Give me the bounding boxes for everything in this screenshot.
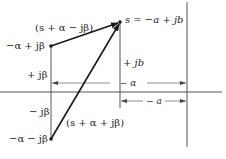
s-point-dot [118, 20, 122, 24]
upper-pole-dot [49, 44, 53, 48]
vector-upper-label: (s + α − jβ) [35, 22, 93, 33]
dimension-alpha-label: − α [120, 78, 136, 88]
dimension-a-label: − a [146, 96, 162, 106]
lower-pole-label: −α − jβ [9, 133, 48, 144]
lower-pole-dot [49, 137, 53, 141]
upper-pole-label: −α + jβ [6, 40, 45, 51]
s-point-label: s = −a + jb [125, 14, 183, 25]
vector-lower-label: (s + α + jβ) [66, 117, 124, 128]
lower-height-label: − jβ [29, 106, 50, 117]
upper-height-label: + jβ [27, 69, 48, 80]
s-height-label: + jb [123, 57, 144, 68]
s-plane-diagram: − α − a (s + α − jβ) −α + jβ s = −a + jb… [0, 0, 226, 159]
